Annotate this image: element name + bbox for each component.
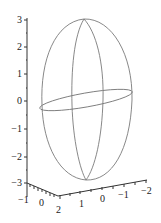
z-axis — [24, 18, 27, 197]
y-tick-label: 0 — [39, 198, 44, 208]
x-tick-label: 1 — [79, 199, 84, 209]
z-tick-label: −1 — [11, 124, 22, 134]
y-tick-label: −1 — [18, 195, 29, 205]
z-tick-label: 3 — [17, 15, 22, 25]
ellipsoid-3d-plot: 3 2 1 0 −1 −2 −3 −1 0 2 1 0 −1 −2 — [0, 0, 161, 223]
z-tick-label: 1 — [17, 69, 22, 79]
x-tick-label: −1 — [118, 190, 129, 200]
equator — [38, 85, 133, 115]
x-tick-label: −2 — [141, 186, 152, 196]
plot-canvas — [0, 0, 161, 223]
y-tick-label: 2 — [56, 205, 61, 215]
y-axis — [27, 183, 58, 197]
z-tick-label: −2 — [11, 152, 22, 162]
z-tick-label: 0 — [17, 96, 22, 106]
meridian-inner — [72, 19, 103, 180]
z-tick-label: −3 — [11, 178, 22, 188]
x-tick-label: 0 — [100, 194, 105, 204]
ellipsoid-wireframe — [38, 19, 133, 180]
z-tick-label: 2 — [17, 42, 22, 52]
